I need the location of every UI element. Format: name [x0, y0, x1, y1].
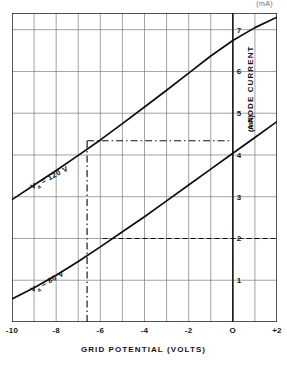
- y-tick-label: 4: [237, 150, 242, 159]
- y-tick-label: 1: [237, 276, 242, 285]
- x-tick-label: -2: [185, 326, 193, 335]
- x-tick-label: -4: [141, 326, 149, 335]
- y-tick-label: 6: [237, 67, 242, 76]
- top-note: (mA): [0, 0, 287, 8]
- y-tick-label: 5: [237, 109, 242, 118]
- annotation-lines: [87, 141, 277, 322]
- figure-root: (mA) -10-8-6-4-2O+2 1234567 GRID POTENTI…: [0, 0, 287, 366]
- x-tick-label: O: [230, 326, 237, 335]
- y-tick-label: 2: [237, 234, 242, 243]
- y-tick-label: 3: [237, 192, 242, 201]
- y-tick-label: 7: [237, 25, 242, 34]
- x-tick-label: +2: [272, 326, 282, 335]
- x-axis-title: GRID POTENTIAL (VOLTS): [0, 345, 287, 354]
- y-axis-unit: (mA): [246, 115, 255, 132]
- x-tick-label: -8: [52, 326, 60, 335]
- x-tick-label: -6: [96, 326, 104, 335]
- x-tick-label: -10: [6, 326, 18, 335]
